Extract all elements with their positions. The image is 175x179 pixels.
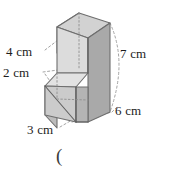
caption-fragment: ( [56,146,62,165]
step-top-face [45,73,88,87]
leader-4cm [45,40,58,50]
step-solid-drawing [0,0,175,179]
right-side-face [88,23,110,122]
step-bottom-face [76,87,88,122]
dimension-label-upper-height: 4 cm [6,45,32,58]
dimension-label-depth: 6 cm [115,104,141,117]
dimension-label-total-height: 7 cm [120,47,146,60]
total-height-arc [110,23,119,112]
dimension-label-step-height: 2 cm [3,66,29,79]
dimension-label-width: 3 cm [27,123,53,136]
leader-2cm [43,70,58,72]
geometry-figure: 4 cm 2 cm 7 cm 6 cm 3 cm ( [0,0,175,179]
